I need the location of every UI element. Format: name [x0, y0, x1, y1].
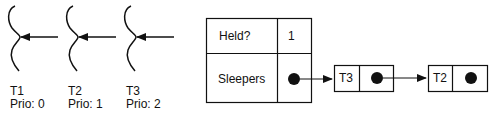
thread-t3-icon: [125, 6, 174, 71]
thread-t1-icon: [9, 6, 58, 71]
thread-priority: Prio: 1: [68, 98, 103, 111]
thread-priority: Prio: 2: [126, 98, 161, 111]
thread-priority: Prio: 0: [10, 98, 45, 111]
sleepers-pointer-dot: [288, 73, 300, 85]
queue-node-t3-label: T3: [339, 71, 353, 85]
held-value: 1: [288, 29, 295, 43]
queue-node-t2-label: T2: [433, 71, 447, 85]
thread-t2-label: T2 Prio: 1: [68, 85, 103, 111]
thread-t2-icon: [67, 6, 116, 71]
held-label: Held?: [219, 29, 250, 43]
sleepers-label: Sleepers: [218, 72, 265, 86]
thread-t3-label: T3 Prio: 2: [126, 85, 161, 111]
thread-t1-label: T1 Prio: 0: [10, 85, 45, 111]
